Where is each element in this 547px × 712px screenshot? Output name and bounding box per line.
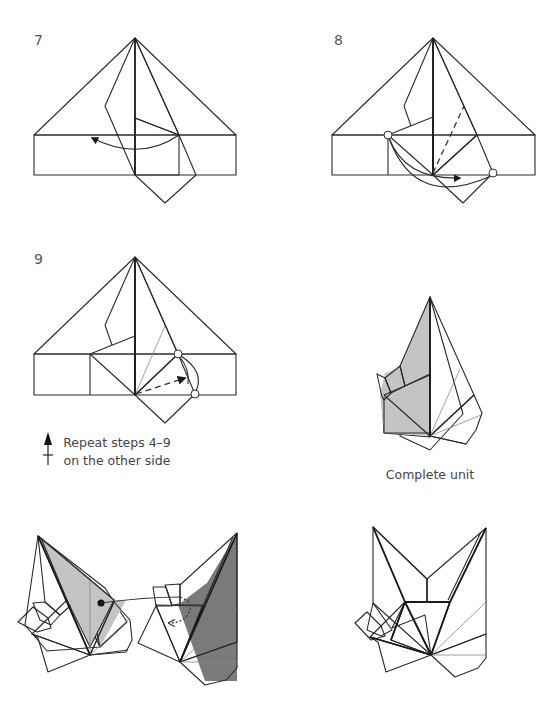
complete-unit-diagram [377, 297, 482, 450]
assembled-result-diagram [353, 527, 486, 677]
turn-over-arrow-icon [43, 432, 53, 465]
reference-point-icon [191, 390, 199, 398]
step-9-diagram [34, 257, 236, 423]
reference-point-icon [174, 350, 182, 358]
assembly-right-unit [138, 533, 237, 685]
step-8-diagram [332, 38, 535, 203]
repeat-steps-caption: Repeat steps 4–9 on the other side [62, 434, 172, 470]
reference-point-icon [384, 131, 392, 139]
repeat-steps-line2: on the other side [62, 452, 172, 470]
reference-point-icon [489, 169, 497, 177]
origami-diagram [0, 0, 547, 712]
complete-unit-caption: Complete unit [370, 466, 490, 484]
assembly-left-unit [18, 536, 132, 672]
step-7-diagram [34, 38, 236, 203]
fold-arrow-icon [389, 138, 460, 178]
repeat-steps-line1: Repeat steps 4–9 [62, 434, 172, 452]
